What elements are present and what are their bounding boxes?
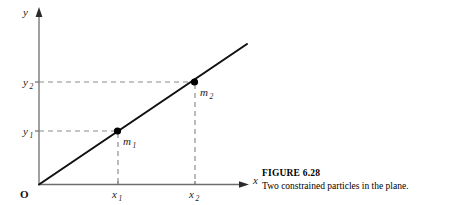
y-axis — [36, 7, 43, 185]
particle-marker-m2 — [191, 78, 198, 85]
particle-label-m1-sub: 1 — [133, 141, 137, 150]
particle-label-m2-sub: 2 — [210, 92, 214, 101]
figure-caption-title: FIGURE 6.28 — [262, 167, 454, 179]
y-tick-label-y1-sub: 1 — [30, 131, 34, 140]
x-tick-label-x2-sub: 2 — [196, 194, 200, 203]
particle-label-m2-base: m — [200, 86, 208, 98]
y-tick-label-y2-sub: 2 — [30, 82, 34, 91]
particle-label-m1-base: m — [123, 135, 131, 147]
figure-caption: FIGURE 6.28 Two constrained particles in… — [262, 167, 454, 193]
x-axis-arrowhead — [239, 181, 249, 188]
origin-label: O — [20, 188, 29, 200]
x-axis — [39, 181, 249, 188]
figure-caption-text: Two constrained particles in the plane. — [262, 180, 454, 193]
x-tick-label-x1-sub: 1 — [119, 194, 123, 203]
figure-container: y x O y 2 y 1 x 1 x 2 m 1 m 2 — [0, 0, 456, 205]
x-tick-label-x1-base: x — [111, 188, 117, 200]
x-tick-label-x1: x 1 — [111, 188, 122, 203]
x-axis-label: x — [252, 174, 258, 186]
particle-label-m1: m 1 — [123, 135, 136, 150]
y-axis-arrowhead — [36, 7, 43, 17]
y-tick-label-y1: y 1 — [22, 125, 33, 140]
x-tick-label-x2-base: x — [188, 188, 194, 200]
x-tick-label-x2: x 2 — [188, 188, 200, 203]
y-tick-label-y2-base: y — [22, 76, 28, 88]
y-tick-label-y1-base: y — [22, 125, 28, 137]
y-axis-label: y — [22, 6, 28, 18]
constraint-line — [39, 44, 247, 185]
y-tick-label-y2: y 2 — [22, 76, 34, 91]
particle-marker-m1 — [114, 127, 121, 134]
particle-label-m2: m 2 — [200, 86, 214, 101]
